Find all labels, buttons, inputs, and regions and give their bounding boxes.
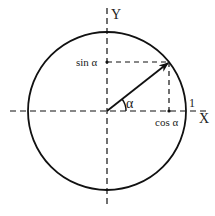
angle-label: α [126,96,134,111]
y-axis-label: Y [111,7,121,22]
unit-circle-diagram: Y X sin α cos α α 1 [0,0,215,216]
sin-label: sin α [76,56,98,68]
sin-point [105,60,108,63]
cos-point [167,109,170,112]
x-axis-label: X [199,111,209,126]
cos-label: cos α [155,116,178,128]
radius-label: 1 [189,96,195,110]
radius-vector-arrow [107,63,168,111]
